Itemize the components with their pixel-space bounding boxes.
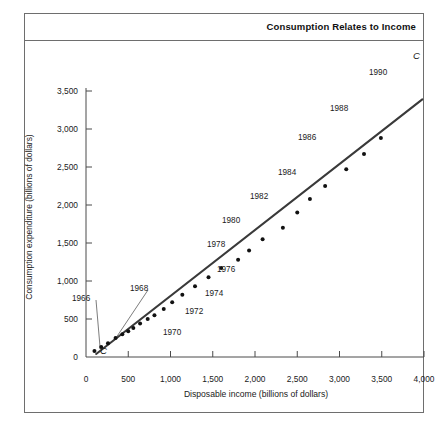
x-axis-tick-label: 2,500 — [275, 374, 319, 384]
year-point-label: 1972 — [185, 307, 203, 316]
x-axis-tick-label: 1,000 — [149, 374, 193, 384]
data-point — [295, 211, 299, 215]
x-axis-tick-label: 4,000 — [402, 374, 446, 384]
data-point — [281, 226, 285, 230]
curve-label-origin: C — [100, 345, 107, 356]
data-point — [162, 307, 166, 311]
year-point-label: 1988 — [330, 104, 348, 113]
data-point — [138, 322, 142, 326]
y-axis-tick-label: 1,000 — [30, 276, 78, 286]
year-point-label: 1986 — [298, 133, 316, 142]
year-point-label: 1978 — [207, 240, 225, 249]
data-point — [170, 300, 174, 304]
year-point-label: 1968 — [130, 284, 148, 293]
data-point — [379, 136, 383, 140]
data-point — [261, 237, 265, 241]
data-point — [323, 184, 327, 188]
year-point-label: 1974 — [205, 289, 223, 298]
data-point — [247, 249, 251, 253]
year-point-label: 1966 — [72, 294, 90, 303]
y-axis-tick-label: 1,500 — [30, 238, 78, 248]
year-point-label: 1980 — [222, 216, 240, 225]
year-point-label: 1990 — [369, 68, 387, 77]
year-point-label: 1982 — [250, 192, 268, 201]
data-point — [344, 167, 348, 171]
data-point — [126, 329, 130, 333]
y-axis-tick-label: 0 — [30, 352, 78, 362]
data-point — [120, 332, 124, 336]
data-point — [180, 293, 184, 297]
y-axis-tick-label: 2,000 — [30, 200, 78, 210]
label-leader-line — [115, 290, 148, 340]
y-axis-tick-label: 3,000 — [30, 124, 78, 134]
data-point — [146, 317, 150, 321]
data-point — [362, 152, 366, 156]
consumption-function-line — [96, 99, 422, 354]
x-axis-tick-label: 3,000 — [318, 374, 362, 384]
x-axis-tick-label: 3,500 — [360, 374, 404, 384]
x-axis-title: Disposable income (billions of dollars) — [86, 389, 426, 399]
label-leader-line — [96, 300, 100, 349]
y-axis-tick-label: 2,500 — [30, 162, 78, 172]
x-axis-tick-label: 500 — [106, 374, 150, 384]
data-point — [308, 197, 312, 201]
data-point — [114, 336, 118, 340]
year-point-label: 1984 — [278, 168, 296, 177]
year-point-label: 1976 — [217, 265, 235, 274]
y-axis-tick-label: 3,500 — [30, 86, 78, 96]
data-point — [207, 275, 211, 279]
curve-label-upper: C — [413, 50, 420, 61]
x-axis-tick-label: 2,000 — [233, 374, 277, 384]
x-axis-tick-label: 0 — [64, 374, 108, 384]
data-point — [193, 284, 197, 288]
figure-root: Consumption Relates to Income Consumptio… — [0, 0, 448, 432]
data-point — [152, 313, 156, 317]
data-point — [236, 258, 240, 262]
x-axis-tick-label: 1,500 — [191, 374, 235, 384]
year-point-label: 1970 — [163, 328, 181, 337]
y-axis-tick-label: 500 — [30, 314, 78, 324]
data-point — [131, 326, 135, 330]
data-point — [92, 349, 96, 353]
